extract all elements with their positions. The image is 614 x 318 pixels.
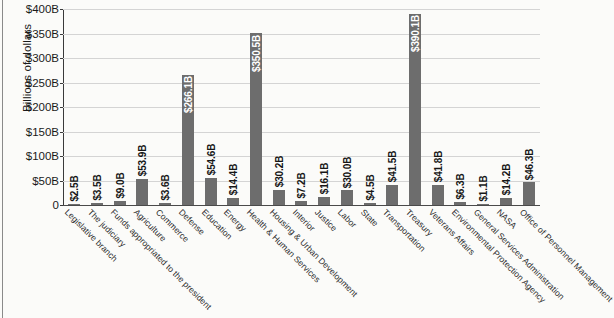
bar-value-label: $46.3B — [523, 148, 534, 180]
bar[interactable] — [454, 202, 466, 205]
y-axis-tick-label: $250B — [26, 77, 59, 89]
bar-slot: $41.5B — [381, 9, 404, 205]
x-axis-label: Labor — [336, 207, 359, 230]
bar-value-label: $6.3B — [455, 173, 466, 199]
bar-slot: $16.1B — [313, 9, 336, 205]
bar-slot: $30.0B — [336, 9, 359, 205]
bar-slot: $53.9B — [131, 9, 154, 205]
bar-slot: $7.2B — [290, 9, 313, 205]
bar[interactable] — [68, 204, 80, 205]
y-axis-tick-label: $300B — [26, 52, 59, 64]
y-axis-tick-label: $50B — [32, 175, 59, 187]
x-axis-line — [63, 205, 540, 206]
bar-value-label: $350.5B — [251, 35, 262, 72]
bar[interactable] — [227, 198, 239, 205]
bar[interactable] — [341, 190, 353, 205]
y-axis-tick-label: $350B — [26, 28, 59, 40]
bar-value-label: $7.2B — [296, 173, 307, 199]
bar-value-label: $14.2B — [500, 164, 511, 196]
bar[interactable] — [318, 197, 330, 205]
bar-value-label: $266.1B — [182, 76, 193, 113]
bar-value-label: $2.5B — [69, 175, 80, 201]
x-axis-category-labels: Legislative branchThe judiciaryFunds app… — [63, 207, 540, 318]
bar-slot: $3.5B — [86, 9, 109, 205]
bar[interactable] — [295, 201, 307, 205]
bar-slot: $9.0B — [108, 9, 131, 205]
bar-slot: $350.5B — [245, 9, 268, 205]
bar[interactable] — [136, 179, 148, 205]
bar-value-label: $54.6B — [205, 144, 216, 176]
bar-slot: $266.1B — [177, 9, 200, 205]
bar-value-label: $30.2B — [273, 156, 284, 188]
bar-value-label: $1.1B — [478, 176, 489, 202]
bar[interactable] — [91, 203, 103, 205]
page-edge-line — [2, 0, 3, 318]
bar-value-label: $4.5B — [364, 174, 375, 200]
bar-value-label: $9.0B — [114, 172, 125, 198]
bar-value-label: $16.1B — [319, 163, 330, 195]
bar-slot: $54.6B — [199, 9, 222, 205]
bar-slot: $30.2B — [267, 9, 290, 205]
bar-slot: $14.2B — [495, 9, 518, 205]
bar-value-label: $3.6B — [160, 175, 171, 201]
plot-area: $400B$350B$300B$250B$200B$150B$100B$50B0… — [63, 9, 540, 205]
bar-value-label: $30.0B — [341, 156, 352, 188]
bar-slot: $6.3B — [449, 9, 472, 205]
bar-value-label: $3.5B — [92, 175, 103, 201]
bar-slot: $14.4B — [222, 9, 245, 205]
x-axis-label: Justice — [313, 207, 339, 233]
y-axis-tick-label: $200B — [26, 101, 59, 113]
y-axis-tick-mark — [60, 205, 63, 206]
bar[interactable] — [205, 178, 217, 205]
x-axis-label: State — [359, 207, 380, 228]
bar[interactable] — [114, 201, 126, 205]
bar-slot: $4.5B — [358, 9, 381, 205]
bar[interactable] — [159, 203, 171, 205]
bar-slot: $41.8B — [426, 9, 449, 205]
bar-slot: $2.5B — [63, 9, 86, 205]
bar-slot: $3.6B — [154, 9, 177, 205]
bar[interactable] — [477, 204, 489, 205]
bar[interactable] — [523, 182, 535, 205]
bar-slot: $46.3B — [517, 9, 540, 205]
y-axis-tick-label: $150B — [26, 126, 59, 138]
y-axis-tick-label: $100B — [26, 150, 59, 162]
bar-value-label: $41.5B — [387, 151, 398, 183]
y-axis-tick-label: 0 — [53, 199, 59, 211]
y-axis-tick-label: $400B — [26, 3, 59, 15]
bar[interactable] — [364, 203, 376, 205]
bar[interactable] — [273, 190, 285, 205]
bar-slot: $390.1B — [404, 9, 427, 205]
bar[interactable] — [500, 198, 512, 205]
x-axis-label: General Services Administration — [472, 207, 567, 302]
bar-slot: $1.1B — [472, 9, 495, 205]
bar-value-label: $14.4B — [228, 164, 239, 196]
bar[interactable] — [386, 185, 398, 205]
bar-value-label: $41.8B — [432, 150, 443, 182]
bar-value-label: $53.9B — [137, 144, 148, 176]
bar[interactable] — [432, 185, 444, 205]
bar-value-label: $390.1B — [410, 15, 421, 52]
